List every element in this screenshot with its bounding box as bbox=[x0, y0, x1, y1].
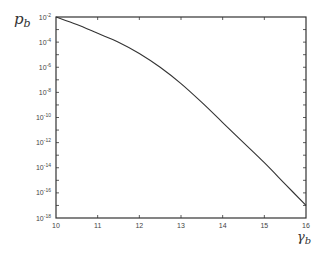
x-tick-label: 13 bbox=[177, 222, 185, 229]
x-tick-label: 15 bbox=[260, 222, 268, 229]
data-line bbox=[56, 17, 306, 205]
x-tick-label: 11 bbox=[94, 222, 101, 229]
x-axis-label: γb bbox=[297, 229, 311, 246]
x-tick-label: 14 bbox=[219, 222, 227, 229]
y-tick-label: 10-10 bbox=[36, 112, 51, 121]
x-tick-label: 16 bbox=[302, 222, 310, 229]
y-tick-label: 10-8 bbox=[39, 87, 51, 96]
y-tick-label: 10-16 bbox=[36, 187, 51, 196]
y-tick-label: 10-14 bbox=[36, 162, 51, 171]
y-axis-label: pb bbox=[14, 10, 31, 30]
x-tick-labels: 10111213141516 bbox=[52, 222, 310, 229]
y-tick-label: 10-4 bbox=[39, 37, 51, 46]
plot-frame bbox=[56, 17, 306, 218]
y-tick-labels: 10-210-410-610-810-1010-1210-1410-1610-1… bbox=[36, 12, 51, 222]
tick-marks bbox=[56, 17, 306, 218]
y-tick-label: 10-2 bbox=[39, 12, 51, 21]
x-tick-label: 12 bbox=[135, 222, 143, 229]
y-tick-label: 10-12 bbox=[36, 137, 51, 146]
y-tick-label: 10-18 bbox=[36, 213, 51, 222]
y-tick-label: 10-6 bbox=[39, 62, 51, 71]
x-tick-label: 10 bbox=[52, 222, 60, 229]
chart: 10-210-410-610-810-1010-1210-1410-1610-1… bbox=[0, 0, 327, 254]
